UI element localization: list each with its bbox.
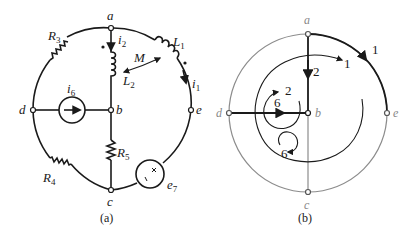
node-e [189, 108, 194, 113]
label-R3: R3 [47, 28, 61, 45]
graph-label-b: b [315, 106, 321, 120]
wire-L1-e [177, 58, 191, 110]
graph-label-a: a [304, 13, 310, 27]
circuit-figure: a b c d e R3 R4 R5 L1 L2 M i2 i1 i6 e7 (… [0, 0, 415, 235]
label-branch-2: 2 [313, 64, 320, 79]
label-L2: L2 [122, 73, 135, 90]
graph-label-c: c [304, 198, 310, 212]
node-c [109, 188, 114, 193]
polarity-dot-L1 [183, 61, 186, 64]
node-d [31, 108, 36, 113]
wire-d-R3 [33, 60, 50, 110]
graph-node-d [227, 111, 232, 116]
wire-R3-a [67, 28, 111, 37]
graph-node-e [385, 111, 390, 116]
label-branch-6: 6 [274, 95, 281, 110]
loop-1 [255, 55, 363, 162]
node-a [109, 26, 114, 31]
loop-2 [264, 92, 300, 128]
graph-label-d: d [216, 106, 223, 120]
label-L1: L1 [172, 34, 185, 51]
resistor-R4 [50, 157, 71, 165]
wire-R4-c [71, 164, 111, 190]
label-node-a: a [107, 8, 114, 23]
graph-label-e: e [393, 106, 399, 120]
label-node-e: e [196, 102, 202, 117]
inductor-L2 [111, 48, 116, 84]
label-branch-1-outer: 1 [372, 42, 379, 57]
wire-e7-e [163, 110, 191, 163]
resistor-R5 [107, 140, 115, 160]
label-loop-6: 6 [281, 146, 288, 161]
caption-a: (a) [100, 211, 113, 225]
polarity-dot-L2 [101, 45, 104, 48]
label-node-d: d [19, 102, 26, 117]
label-R4: R4 [42, 170, 56, 187]
wire-d-R4 [33, 110, 50, 158]
label-M: M [133, 50, 146, 65]
wire-c-e7 [111, 183, 137, 190]
label-node-c: c [107, 194, 113, 209]
label-i1: i1 [192, 76, 200, 93]
voltage-source-e7 [136, 160, 164, 188]
label-loop-2: 2 [285, 83, 292, 98]
label-R5: R5 [116, 145, 130, 162]
node-b [109, 108, 114, 113]
label-e7: e7 [167, 177, 178, 194]
graph-node-a [306, 32, 311, 37]
caption-b: (b) [298, 211, 312, 225]
label-loop-1: 1 [344, 56, 351, 71]
label-i2: i2 [118, 32, 126, 49]
label-i6: i6 [67, 81, 76, 98]
label-node-b: b [116, 102, 123, 117]
graph-node-c [306, 190, 311, 195]
graph-node-b [306, 111, 311, 116]
